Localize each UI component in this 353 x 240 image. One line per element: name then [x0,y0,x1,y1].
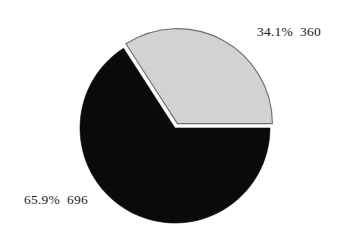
pie-slice-label-light: 34.1% 360 [257,25,321,39]
pie-chart-figure: 34.1% 360 65.9% 696 [0,0,353,240]
pie-slice-label-dark: 65.9% 696 [24,193,88,207]
